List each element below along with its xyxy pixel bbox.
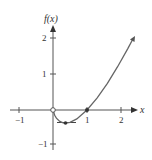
x-tick-label: −1: [15, 115, 25, 125]
y-tick-label: −1: [38, 139, 48, 149]
x-axis-arrow-icon: [131, 107, 138, 113]
open-circle-origin: [51, 108, 56, 113]
x-axis-label: x: [139, 104, 145, 115]
x-tick-label: 1: [85, 115, 90, 125]
y-axis-arrow-icon: [50, 25, 56, 32]
y-tick-label: 2: [42, 33, 47, 43]
y-axis-label: f(x): [44, 13, 59, 25]
closed-dot-minimum: [64, 121, 68, 125]
function-plot: −1 1 2 2 1 −1 f(x) x: [0, 0, 152, 160]
closed-dot-x1: [85, 108, 89, 112]
y-tick-label: 1: [42, 69, 47, 79]
x-tick-label: 2: [119, 115, 124, 125]
